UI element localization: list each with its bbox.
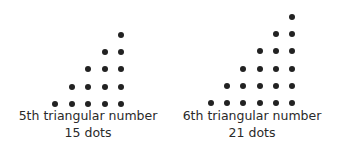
- dot: [208, 100, 214, 106]
- dot: [273, 66, 279, 72]
- dot: [240, 83, 246, 89]
- dot: [289, 66, 295, 72]
- dot: [257, 48, 263, 54]
- dot: [273, 100, 279, 106]
- dot: [273, 83, 279, 89]
- dot: [257, 66, 263, 72]
- caption-title: 6th triangular number: [183, 108, 322, 124]
- dot: [273, 31, 279, 37]
- caption-count: 21 dots: [229, 125, 276, 141]
- dot: [289, 100, 295, 106]
- dot: [257, 100, 263, 106]
- dot: [257, 83, 263, 89]
- figure-6th-triangular: 6th triangular number 21 dots: [0, 0, 337, 152]
- dot: [289, 48, 295, 54]
- dot: [289, 83, 295, 89]
- dot: [273, 48, 279, 54]
- dot: [240, 100, 246, 106]
- dot: [224, 83, 230, 89]
- dot: [289, 14, 295, 20]
- dot: [240, 66, 246, 72]
- dot: [289, 31, 295, 37]
- dot: [224, 100, 230, 106]
